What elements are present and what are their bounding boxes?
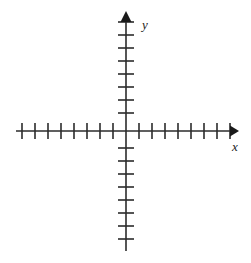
y-axis-group bbox=[118, 15, 134, 251]
x-axis-group bbox=[16, 123, 234, 139]
axes-svg bbox=[0, 0, 251, 263]
x-axis-arrowhead-icon bbox=[230, 126, 239, 137]
y-axis-arrowhead-icon bbox=[121, 11, 132, 22]
coordinate-plane-figure: y x bbox=[0, 0, 251, 263]
y-axis-label: y bbox=[142, 18, 148, 31]
x-axis-label: x bbox=[232, 140, 238, 153]
